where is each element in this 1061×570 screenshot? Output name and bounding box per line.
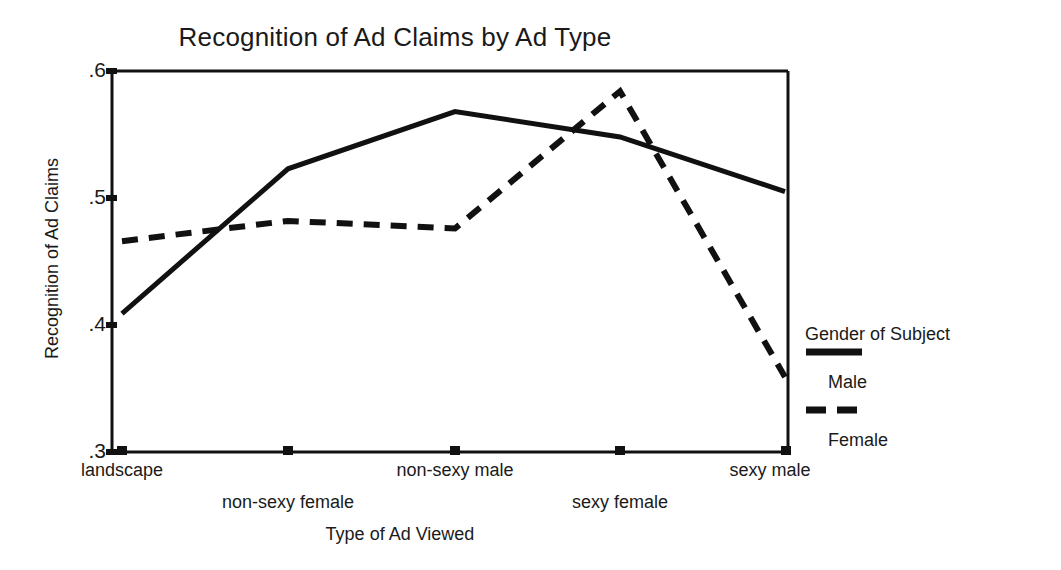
series-line-female	[122, 91, 785, 377]
plot-area	[0, 0, 1061, 570]
chart-figure: Recognition of Ad Claims by Ad Type Reco…	[0, 0, 1061, 570]
series-line-male	[122, 112, 785, 314]
